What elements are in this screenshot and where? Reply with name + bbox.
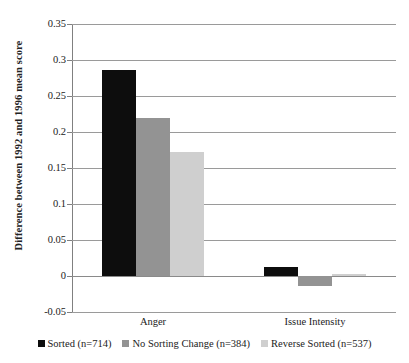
gridline [72, 24, 396, 25]
y-axis-tick [67, 168, 72, 169]
y-axis-tick-label: 0.35 [24, 19, 66, 29]
bar [136, 118, 170, 276]
bar [170, 152, 204, 276]
legend-swatch-icon [122, 340, 129, 347]
y-axis-tick-label: 0.2 [24, 127, 66, 137]
bar-chart: Difference between 1992 and 1996 mean sc… [0, 0, 409, 363]
y-axis-tick [67, 276, 72, 277]
plot-area: 0.350.30.250.20.150.10.050-0.05 [72, 24, 396, 312]
y-axis-tick-label: 0.25 [24, 91, 66, 101]
legend-item: No Sorting Change (n=384) [122, 338, 250, 349]
bar [298, 276, 332, 286]
y-axis-tick [67, 240, 72, 241]
y-axis-tick [67, 60, 72, 61]
legend-swatch-icon [38, 340, 45, 347]
y-axis-tick-label: 0 [24, 271, 66, 281]
y-axis-tick [67, 96, 72, 97]
bar [332, 274, 366, 276]
legend-label: Reverse Sorted (n=537) [271, 338, 371, 349]
y-axis-tick [67, 132, 72, 133]
x-axis-label: Anger [72, 316, 234, 327]
y-axis-tick-label: 0.15 [24, 163, 66, 173]
y-axis-tick [67, 24, 72, 25]
bar [102, 70, 136, 276]
y-axis-tick-label: 0.05 [24, 235, 66, 245]
gridline [72, 60, 396, 61]
y-axis-tick-label: 0.1 [24, 199, 66, 209]
legend-label: No Sorting Change (n=384) [132, 338, 250, 349]
y-axis-tick-label: -0.05 [24, 307, 66, 317]
legend-item: Sorted (n=714) [38, 338, 112, 349]
bar [264, 267, 298, 276]
y-axis-tick-label: 0.3 [24, 55, 66, 65]
gridline [72, 276, 396, 277]
gridline [72, 312, 396, 313]
x-axis-label: Issue Intensity [234, 316, 396, 327]
y-axis-title: Difference between 1992 and 1996 mean sc… [13, 16, 24, 276]
legend-item: Reverse Sorted (n=537) [261, 338, 371, 349]
chart-legend: Sorted (n=714)No Sorting Change (n=384)R… [0, 338, 409, 349]
legend-swatch-icon [261, 340, 268, 347]
y-axis-tick [67, 312, 72, 313]
y-axis-tick [67, 204, 72, 205]
legend-label: Sorted (n=714) [48, 338, 112, 349]
